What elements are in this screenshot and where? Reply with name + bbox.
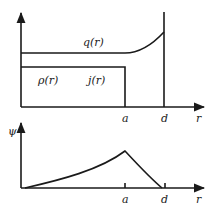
rho-label: ρ(r) bbox=[37, 74, 58, 87]
bottom-x-axis-label: r bbox=[196, 193, 202, 206]
top-tick-a-label: a bbox=[122, 112, 129, 125]
rho-j-box bbox=[21, 67, 125, 107]
bottom-tick-a-label: a bbox=[122, 193, 129, 206]
j-label: j(r) bbox=[85, 74, 105, 87]
bottom-panel: ψ a d r bbox=[8, 123, 204, 206]
q-label: q(r) bbox=[83, 36, 104, 49]
top-panel: q(r) ρ(r) j(r) a d r bbox=[21, 12, 204, 125]
diagram: q(r) ρ(r) j(r) a d r ψ a d r bbox=[0, 0, 217, 214]
top-x-axis-label: r bbox=[196, 112, 202, 125]
top-tick-d-label: d bbox=[161, 112, 168, 125]
bottom-tick-d-label: d bbox=[161, 193, 168, 206]
psi-curve bbox=[25, 151, 162, 188]
psi-axis-label: ψ bbox=[8, 125, 17, 138]
